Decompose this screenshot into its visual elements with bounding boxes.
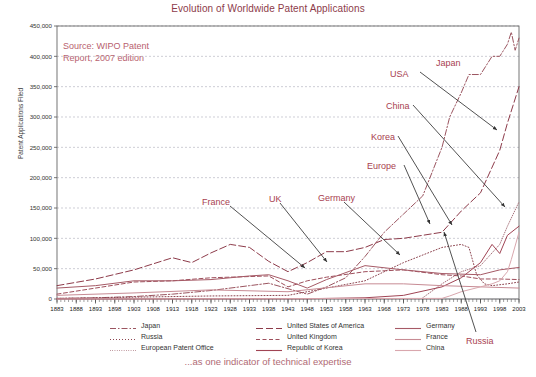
svg-text:1948: 1948 (301, 306, 315, 312)
svg-text:0: 0 (49, 295, 53, 302)
patent-applications-chart: Evolution of Worldwide Patent Applicatio… (0, 0, 536, 377)
svg-text:1918: 1918 (185, 306, 199, 312)
annotation-france: France (202, 197, 230, 207)
legend-label: United Kingdom (287, 333, 337, 340)
svg-text:1988: 1988 (455, 306, 469, 312)
annotation-china: China (386, 101, 410, 111)
svg-text:250,000: 250,000 (30, 144, 53, 151)
legend-item-european-patent-office[interactable]: European Patent Office (110, 342, 214, 353)
legend-item-republic-of-korea[interactable]: Republic of Korea (256, 342, 364, 353)
svg-text:1883: 1883 (50, 306, 64, 312)
legend-label: European Patent Office (141, 344, 214, 351)
svg-text:150,000: 150,000 (30, 204, 53, 211)
legend-item-japan[interactable]: Japan (110, 320, 214, 331)
svg-text:2003: 2003 (512, 306, 526, 312)
legend-item-china[interactable]: China (395, 342, 455, 353)
legend-column-1: JapanRussiaEuropean Patent Office (110, 320, 214, 353)
svg-text:300,000: 300,000 (30, 113, 53, 120)
legend-column-3: GermanyFranceChina (395, 320, 455, 353)
annotation-japan: Japan (436, 58, 461, 68)
svg-text:50,000: 50,000 (33, 265, 52, 272)
svg-text:400,000: 400,000 (30, 53, 53, 60)
svg-text:1993: 1993 (474, 306, 488, 312)
svg-text:1968: 1968 (378, 306, 392, 312)
svg-text:1913: 1913 (166, 306, 180, 312)
annotation-russia: Russia (466, 336, 494, 346)
annotation-korea: Korea (371, 132, 395, 142)
legend-item-united-states-of-america[interactable]: United States of America (256, 320, 364, 331)
legend-label: Republic of Korea (287, 344, 343, 351)
svg-text:1978: 1978 (416, 306, 430, 312)
svg-text:1998: 1998 (493, 306, 507, 312)
legend-item-russia[interactable]: Russia (110, 331, 214, 342)
svg-text:1923: 1923 (204, 306, 218, 312)
svg-text:1928: 1928 (224, 306, 238, 312)
annotation-usa: USA (390, 69, 409, 79)
svg-text:1933: 1933 (243, 306, 257, 312)
svg-text:1888: 1888 (70, 306, 84, 312)
legend-item-united-kingdom[interactable]: United Kingdom (256, 331, 364, 342)
annotation-uk: UK (269, 194, 282, 204)
svg-text:450,000: 450,000 (30, 22, 53, 29)
legend-label: China (426, 344, 444, 351)
legend-label: Russia (141, 333, 162, 340)
legend-label: Germany (426, 322, 455, 329)
legend-label: France (426, 333, 448, 340)
svg-text:1983: 1983 (435, 306, 449, 312)
annotation-germany: Germany (318, 193, 355, 203)
svg-text:1943: 1943 (281, 306, 295, 312)
annotation-europe: Europe (367, 161, 396, 171)
svg-text:1903: 1903 (127, 306, 141, 312)
svg-text:100,000: 100,000 (30, 235, 53, 242)
svg-text:1963: 1963 (358, 306, 372, 312)
legend-column-2: United States of AmericaUnited KingdomRe… (256, 320, 364, 353)
legend-item-france[interactable]: France (395, 331, 455, 342)
legend-label: United States of America (287, 322, 364, 329)
svg-text:1898: 1898 (108, 306, 122, 312)
chart-caption: ...as one indicator of technical experti… (0, 356, 536, 367)
svg-text:350,000: 350,000 (30, 83, 53, 90)
svg-text:1893: 1893 (89, 306, 103, 312)
legend-item-germany[interactable]: Germany (395, 320, 455, 331)
svg-text:1973: 1973 (397, 306, 411, 312)
svg-text:1938: 1938 (262, 306, 276, 312)
svg-text:200,000: 200,000 (30, 174, 53, 181)
svg-text:1958: 1958 (339, 306, 353, 312)
legend-label: Japan (141, 322, 160, 329)
chart-legend: JapanRussiaEuropean Patent OfficeUnited … (110, 320, 440, 354)
svg-text:1908: 1908 (147, 306, 161, 312)
svg-text:1953: 1953 (320, 306, 334, 312)
